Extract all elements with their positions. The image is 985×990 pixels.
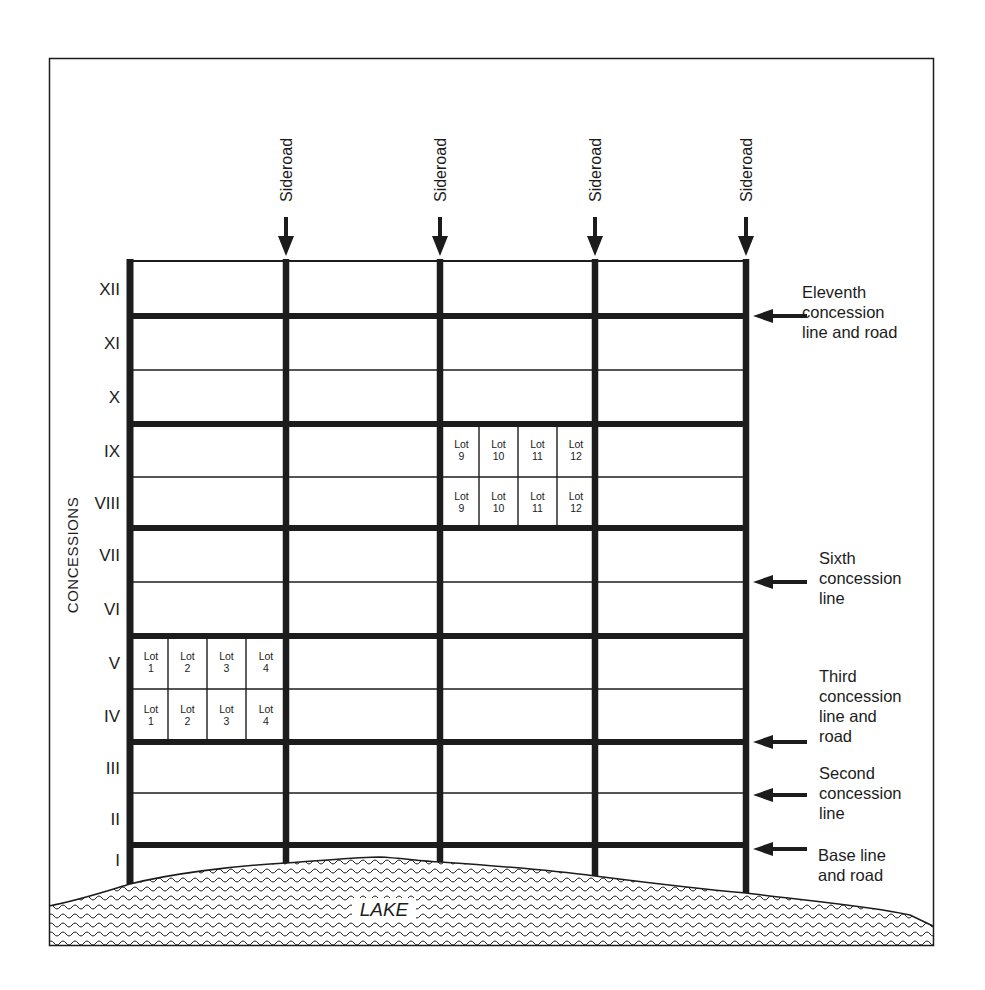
lot-label-number: 2 xyxy=(185,715,191,727)
lot-label-number: 12 xyxy=(570,450,582,462)
lot-label-number: 12 xyxy=(570,502,582,514)
annotation-text-line: line xyxy=(819,589,845,607)
sideroad-label: Sideroad xyxy=(432,138,449,202)
annotation-text-line: Third xyxy=(819,667,857,685)
lot-label-word: Lot xyxy=(491,438,506,450)
lot-label-word: Lot xyxy=(259,650,274,662)
annotation-text-line: line and road xyxy=(802,323,897,341)
lot-label-word: Lot xyxy=(219,650,234,662)
annotation-text-line: and road xyxy=(818,866,883,884)
lake-label: LAKE xyxy=(360,899,409,920)
concession-label: VIII xyxy=(94,494,120,513)
concession-label: X xyxy=(109,388,120,407)
lot-label-number: 10 xyxy=(493,450,505,462)
concession-label: XI xyxy=(104,334,120,353)
annotation-text-line: Base line xyxy=(818,846,886,864)
concession-label: VI xyxy=(104,600,120,619)
annotation-text-line: concession xyxy=(819,687,902,705)
lot-label-number: 9 xyxy=(459,502,465,514)
annotation-text-line: line and xyxy=(819,707,877,725)
sideroad-label: Sideroad xyxy=(738,138,755,202)
lot-label-word: Lot xyxy=(180,650,195,662)
concession-label: XII xyxy=(99,280,120,299)
concession-label: IV xyxy=(104,707,121,726)
lot-label-number: 3 xyxy=(224,662,230,674)
lot-label-number: 1 xyxy=(148,715,154,727)
lot-label-word: Lot xyxy=(144,703,159,715)
lot-label-number: 4 xyxy=(263,662,269,674)
diagram-frame xyxy=(50,59,934,946)
lot-label-word: Lot xyxy=(454,438,469,450)
lot-label-number: 9 xyxy=(459,450,465,462)
annotation-text-line: Sixth xyxy=(819,549,856,567)
lot-label-word: Lot xyxy=(454,490,469,502)
lot-label-number: 3 xyxy=(224,715,230,727)
concession-label: II xyxy=(111,810,120,829)
annotation-text-line: Eleventh xyxy=(802,283,866,301)
lot-label-word: Lot xyxy=(491,490,506,502)
concession-label: VII xyxy=(99,546,120,565)
lot-label-number: 4 xyxy=(263,715,269,727)
lot-label-word: Lot xyxy=(180,703,195,715)
lot-label-word: Lot xyxy=(530,490,545,502)
annotation-text-line: Second xyxy=(819,764,875,782)
lot-label-word: Lot xyxy=(219,703,234,715)
lot-label-word: Lot xyxy=(569,438,584,450)
lot-label-number: 11 xyxy=(532,502,543,514)
township-survey-diagram: LAKE Lot9Lot10Lot11Lot12Lot9Lot10Lot11Lo… xyxy=(0,0,985,990)
lot-label-number: 10 xyxy=(493,502,505,514)
concession-label: I xyxy=(115,851,120,870)
annotation-text-line: concession xyxy=(802,303,885,321)
lot-label-number: 2 xyxy=(185,662,191,674)
lot-label-number: 11 xyxy=(532,450,543,462)
sideroad-label: Sideroad xyxy=(278,138,295,202)
concession-label: IX xyxy=(104,442,120,461)
lot-label-number: 1 xyxy=(148,662,154,674)
annotation-text-line: line xyxy=(819,804,845,822)
lot-label-word: Lot xyxy=(530,438,545,450)
sideroad-label: Sideroad xyxy=(587,138,604,202)
lot-label-word: Lot xyxy=(144,650,159,662)
lot-label-word: Lot xyxy=(569,490,584,502)
annotation-text-line: road xyxy=(819,727,852,745)
annotation-text-line: concession xyxy=(819,784,902,802)
lot-label-word: Lot xyxy=(259,703,274,715)
annotation-text-line: concession xyxy=(819,569,902,587)
concession-label: III xyxy=(106,759,120,778)
concessions-axis-label: CONCESSIONS xyxy=(64,497,81,613)
concession-label: V xyxy=(109,654,121,673)
